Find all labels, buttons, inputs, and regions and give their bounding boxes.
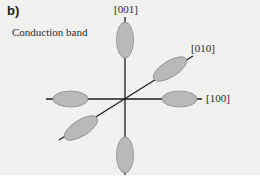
valley-plus-100-ellipse xyxy=(162,91,197,107)
valley-plus-001-ellipse xyxy=(117,22,134,58)
conduction-band-diagram: b) Conduction band [001] [010] [100] xyxy=(0,0,260,180)
axis-label-100: [100] xyxy=(206,92,230,104)
valley-minus-001-ellipse xyxy=(117,137,134,173)
panel-label: b) xyxy=(7,3,19,18)
valley-minus-100-ellipse xyxy=(53,91,88,107)
axis-label-001: [001] xyxy=(114,3,138,15)
valley-plus-010-ellipse xyxy=(150,52,191,86)
axis-label-010: [010] xyxy=(191,42,215,54)
conduction-band-label: Conduction band xyxy=(12,26,87,38)
bottom-margin xyxy=(0,175,260,180)
valley-minus-010-ellipse xyxy=(61,111,102,145)
